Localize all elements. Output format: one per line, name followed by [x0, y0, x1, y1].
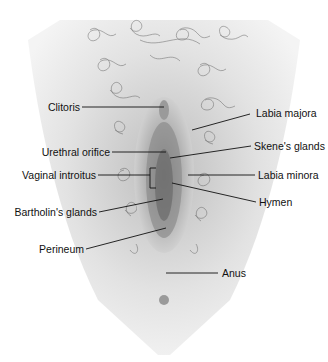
label-anus: Anus	[222, 267, 246, 279]
anatomy-illustration	[0, 0, 328, 362]
label-urethral-orifice: Urethral orifice	[0, 146, 110, 158]
clitoris-shape	[159, 100, 169, 120]
label-skenes-glands: Skene's glands	[254, 140, 325, 152]
label-labia-minora: Labia minora	[258, 169, 319, 181]
label-perineum: Perineum	[0, 243, 84, 255]
label-bartholins-glands: Bartholin's glands	[0, 206, 97, 218]
label-labia-majora: Labia majora	[256, 107, 317, 119]
label-hymen: Hymen	[259, 196, 292, 208]
anus-shape	[159, 295, 169, 305]
label-clitoris: Clitoris	[0, 101, 80, 113]
label-vaginal-introitus: Vaginal introitus	[0, 169, 96, 181]
diagram-canvas: Clitoris Urethral orifice Vaginal introi…	[0, 0, 328, 362]
